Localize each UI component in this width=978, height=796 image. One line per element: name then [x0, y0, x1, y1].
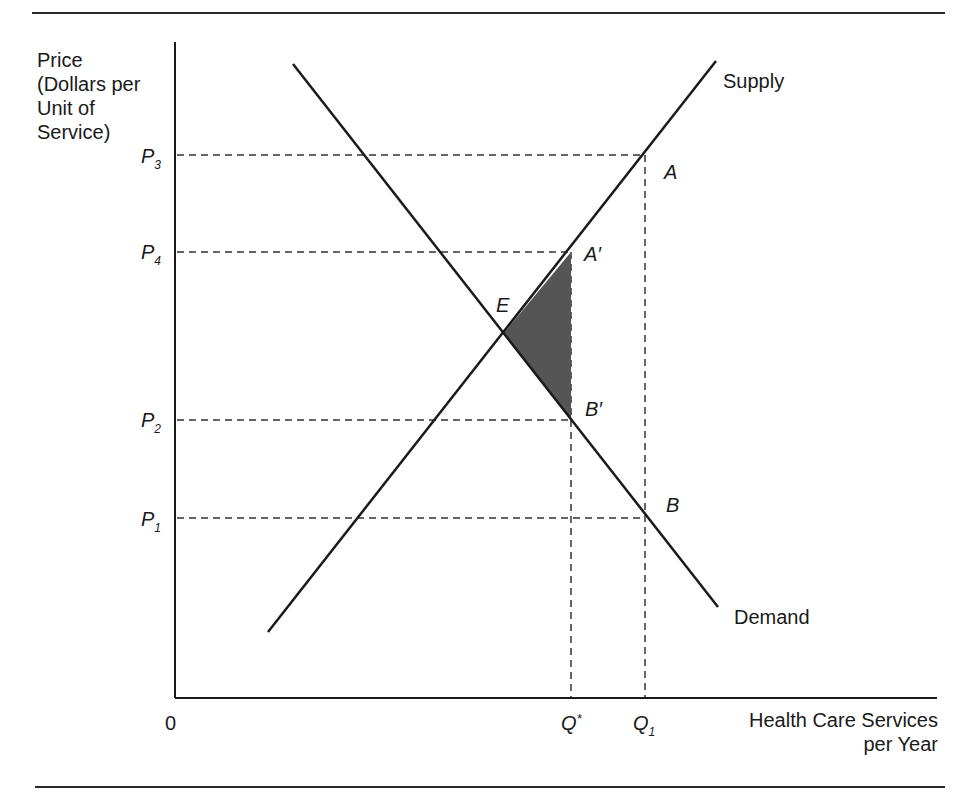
chart-canvas: [0, 0, 978, 796]
point-e-label: E: [496, 294, 509, 316]
tick-sub: 1: [154, 521, 161, 535]
tick-base: P: [141, 409, 154, 431]
y-title-line: Service): [37, 120, 140, 144]
demand-curve: [293, 64, 718, 607]
supply-label: Supply: [723, 70, 784, 92]
x-axis-title: Health Care Services per Year: [749, 708, 938, 756]
point-b-label: B: [666, 494, 679, 516]
supply-curve: [268, 61, 716, 632]
point-b-prime-label: B′: [585, 398, 602, 420]
tick-sub: 3: [154, 158, 161, 172]
tick-qstar: Q*: [561, 712, 582, 737]
tick-sub: *: [577, 711, 582, 726]
tick-sub: 4: [154, 254, 161, 268]
x-title-line: per Year: [749, 732, 938, 756]
tick-sub: 1: [649, 725, 656, 739]
y-title-line: Unit of: [37, 96, 140, 120]
tick-p2: P2: [141, 409, 161, 434]
y-axis-title: Price (Dollars per Unit of Service): [37, 48, 140, 144]
point-a-prime-label: A′: [584, 243, 601, 265]
tick-sub: 2: [154, 422, 161, 436]
deadweight-loss-triangle: [503, 252, 571, 420]
y-title-line: (Dollars per: [37, 72, 140, 96]
y-title-line: Price: [37, 48, 140, 72]
tick-base: Q: [633, 712, 649, 734]
tick-base: P: [141, 241, 154, 263]
tick-p3: P3: [141, 145, 161, 170]
tick-q1: Q1: [633, 712, 655, 737]
demand-label: Demand: [734, 606, 810, 628]
tick-base: Q: [561, 712, 577, 734]
point-a-label: A: [664, 161, 677, 183]
tick-base: P: [141, 145, 154, 167]
tick-p1: P1: [141, 508, 161, 533]
tick-base: P: [141, 508, 154, 530]
x-title-line: Health Care Services: [749, 708, 938, 732]
origin-label: 0: [165, 712, 176, 734]
tick-p4: P4: [141, 241, 161, 266]
